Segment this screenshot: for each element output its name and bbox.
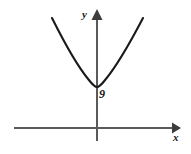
parabola-figure: y x 9 [0, 0, 191, 154]
y-axis-label: y [82, 9, 87, 20]
y-axis-arrow-icon [92, 9, 103, 20]
vertex-value-label: 9 [99, 88, 105, 100]
graph-canvas [0, 0, 191, 154]
x-axis-label: x [173, 132, 179, 143]
